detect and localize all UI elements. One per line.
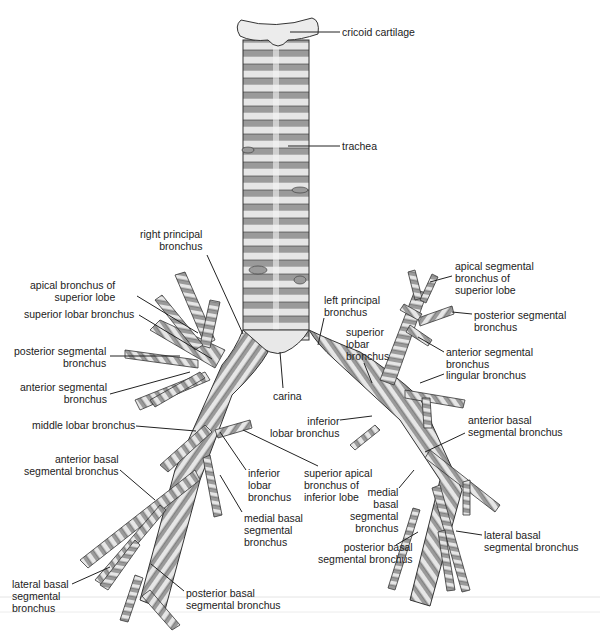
label-carina: carina xyxy=(273,390,302,402)
label-inferior-lobar-bronchus-left: inferior lobar bronchus xyxy=(270,415,339,439)
label-anterior-segmental-bronchus-left: anterior segmental bronchus xyxy=(446,346,533,370)
leader-line-medial-basal-segmental-bronchus-left xyxy=(399,470,414,488)
leader-line-anterior-basal-segmental-bronchus-right xyxy=(120,470,155,500)
label-posterior-segmental-bronchus-right: posterior segmental bronchus xyxy=(14,345,106,369)
label-medial-basal-segmental-bronchus-left: medial basal segmental bronchus xyxy=(350,486,398,534)
label-apical-bronchus-superior-lobe: apical bronchus of superior lobe xyxy=(30,279,115,303)
label-posterior-segmental-bronchus-left: posterior segmental bronchus xyxy=(474,309,566,333)
label-middle-lobar-bronchus: middle lobar bronchus xyxy=(32,419,135,431)
label-superior-lobar-bronchus-left: superior lobar bronchus xyxy=(346,326,389,362)
label-left-principal-bronchus: left principal bronchus xyxy=(324,294,380,318)
leader-line-posterior-segmental-bronchus-left xyxy=(452,312,472,314)
label-inferior-lobar-bronchus-right: inferior lobar bronchus xyxy=(248,467,291,503)
label-superior-lobar-bronchus-right: superior lobar bronchus xyxy=(24,308,134,320)
label-posterior-basal-segmental-bronchus-left: posterior basal segmental bronchus xyxy=(318,541,413,565)
label-lateral-basal-segmental-bronchus-left: lateral basal segmental bronchus xyxy=(484,529,579,553)
leader-line-medial-basal-segmental-bronchus-right xyxy=(220,475,242,512)
trachea-shape xyxy=(237,18,318,340)
label-anterior-segmental-bronchus-right: anterior segmental bronchus xyxy=(20,381,107,405)
label-apical-segmental-bronchus-superior-lobe: apical segmental bronchus of superior lo… xyxy=(455,260,534,296)
label-anterior-basal-segmental-bronchus-left: anterior basal segmental bronchus xyxy=(468,414,563,438)
label-right-principal-bronchus: right principal bronchus xyxy=(140,228,202,252)
leader-line-lateral-basal-segmental-bronchus-left xyxy=(456,531,482,535)
leader-line-middle-lobar-bronchus xyxy=(136,426,196,431)
label-trachea: trachea xyxy=(342,140,377,152)
right-bronchial-tree xyxy=(80,272,268,630)
label-lingular-bronchus: lingular bronchus xyxy=(446,369,526,381)
bronchial-tree-diagram: cricoid cartilagetrachearight principal … xyxy=(0,0,600,635)
leader-line-lingular-bronchus xyxy=(420,374,444,383)
label-cricoid-cartilage: cricoid cartilage xyxy=(342,26,415,38)
leader-line-inferior-lobar-bronchus-left xyxy=(340,416,372,420)
label-anterior-basal-segmental-bronchus-right: anterior basal segmental bronchus xyxy=(24,453,119,477)
leader-line-carina xyxy=(280,352,283,388)
label-posterior-basal-segmental-bronchus-right: posterior basal segmental bronchus xyxy=(186,587,281,611)
label-medial-basal-segmental-bronchus-right: medial basal segmental bronchus xyxy=(244,512,303,548)
label-lateral-basal-segmental-bronchus-right: lateral basal segmental bronchus xyxy=(12,578,69,614)
leader-line-inferior-lobar-bronchus-right xyxy=(220,432,246,470)
